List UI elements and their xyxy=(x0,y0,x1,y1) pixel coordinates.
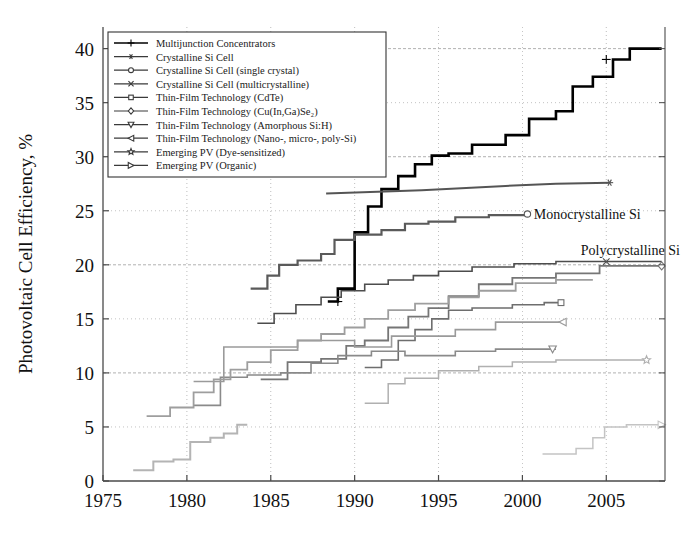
series-marker-square xyxy=(558,300,564,306)
legend-label: Thin-Film Technology (Cu(In,Ga)Se₂) xyxy=(156,106,318,118)
y-tick-label: 40 xyxy=(75,39,94,60)
x-tick-label: 2000 xyxy=(503,490,541,511)
legend-label: Crystalline Si Cell (single crystal) xyxy=(156,65,299,77)
series-marker-diamond xyxy=(658,262,665,270)
series-marker-left-triangle xyxy=(559,318,566,325)
x-tick-label: 1990 xyxy=(336,490,374,511)
y-tick-label: 0 xyxy=(85,471,95,492)
series-marker-square xyxy=(129,95,134,100)
y-tick-label: 35 xyxy=(75,93,94,114)
x-tick-label: 2005 xyxy=(587,490,625,511)
y-tick-label: 30 xyxy=(75,147,94,168)
y-tick-label: 20 xyxy=(75,255,94,276)
series-marker-circle xyxy=(129,68,134,73)
y-tick-label: 10 xyxy=(75,363,94,384)
series-marker-star xyxy=(643,356,651,364)
y-tick-label: 15 xyxy=(75,309,94,330)
series-marker-asterisk xyxy=(606,180,613,186)
y-tick-label: 5 xyxy=(85,417,95,438)
annotation-label-0: Monocrystalline Si xyxy=(534,207,641,222)
series-line-9 xyxy=(543,425,662,454)
x-tick-label: 1980 xyxy=(168,490,206,511)
legend-label: Emerging PV (Dye-sensitized) xyxy=(156,147,286,159)
legend-label: Thin-Film Technology (Nano-, micro-, pol… xyxy=(156,133,357,145)
series-line-6 xyxy=(194,349,556,405)
legend-label: Crystalline Si Cell xyxy=(156,52,234,63)
series-marker-plus xyxy=(333,297,342,306)
series-line-4 xyxy=(365,303,560,368)
series-marker-circle xyxy=(524,211,530,217)
legend-label: Crystalline Si Cell (multicrystalline) xyxy=(156,79,310,91)
series-line-2 xyxy=(251,214,526,289)
series-line-1 xyxy=(326,183,610,194)
series-line-10 xyxy=(133,425,247,470)
y-axis-title: Photovoltaic Cell Efficiency, % xyxy=(15,134,36,374)
legend-label: Emerging PV (Organic) xyxy=(156,160,257,172)
photovoltaic-efficiency-chart: 0510152025303540197519801985199019952000… xyxy=(0,0,687,536)
legend-label: Thin-Film Technology (CdTe) xyxy=(156,92,284,104)
legend-label: Multijunction Concentrators xyxy=(156,38,275,49)
series-line-5 xyxy=(261,266,662,380)
series-line-3 xyxy=(257,262,661,324)
x-tick-label: 1985 xyxy=(252,490,290,511)
annotation-label-1: Polycrystalline Si xyxy=(581,243,680,258)
series-line-11 xyxy=(147,280,593,416)
y-tick-label: 25 xyxy=(75,201,94,222)
series-marker-plus xyxy=(602,55,611,64)
x-tick-label: 1975 xyxy=(84,490,122,511)
legend-label: Thin-Film Technology (Amorphous Si:H) xyxy=(156,120,333,132)
x-tick-label: 1995 xyxy=(420,490,458,511)
series-line-8 xyxy=(365,360,647,403)
chart-canvas: 0510152025303540197519801985199019952000… xyxy=(0,0,687,536)
